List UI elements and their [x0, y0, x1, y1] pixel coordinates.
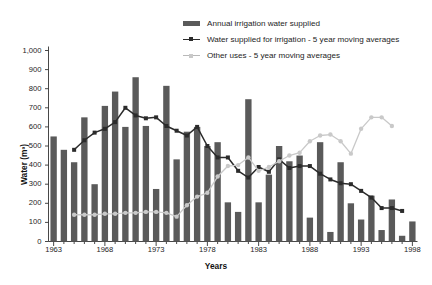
line-marker	[185, 134, 189, 138]
bar	[337, 162, 343, 241]
bar	[112, 92, 118, 242]
line-marker	[123, 211, 127, 215]
bar	[317, 142, 323, 241]
line-marker	[328, 132, 332, 136]
bar	[50, 136, 56, 241]
line-marker	[328, 177, 332, 181]
line-marker	[216, 155, 220, 159]
y-tick-label: 1,000	[12, 47, 42, 55]
line-marker	[113, 120, 117, 124]
bar-series	[50, 77, 415, 241]
line-marker	[72, 213, 76, 217]
line-marker	[236, 163, 240, 167]
line-marker	[133, 211, 137, 215]
line-path	[74, 117, 392, 216]
bar	[307, 218, 313, 242]
bar	[184, 132, 190, 242]
bar	[399, 236, 405, 242]
line-marker	[267, 170, 271, 174]
line-marker	[195, 125, 199, 129]
y-tick-label: 900	[12, 66, 42, 74]
y-tick-label: 0	[12, 238, 42, 246]
y-tick-label: 300	[12, 180, 42, 188]
line-marker	[103, 212, 107, 216]
line-marker	[82, 138, 86, 142]
bar	[122, 127, 128, 242]
line-marker	[390, 206, 394, 210]
line-series-irrigation-avg	[72, 106, 404, 213]
line-marker	[134, 113, 138, 117]
bar-swatch-icon	[183, 17, 200, 30]
line-marker	[297, 150, 301, 154]
chart-legend: Annual irrigation water supplied Water s…	[183, 17, 432, 65]
line-marker	[164, 124, 168, 128]
line-marker	[349, 151, 353, 155]
line-marker	[205, 191, 209, 195]
line-marker	[339, 181, 343, 185]
line-marker	[287, 166, 291, 170]
legend-label-bars: Annual irrigation water supplied	[207, 18, 320, 29]
y-tick-label: 100	[12, 218, 42, 226]
line-marker	[277, 159, 281, 163]
x-tick-label: 1988	[294, 246, 326, 254]
bar	[61, 150, 67, 242]
line-marker	[185, 203, 189, 207]
bar	[235, 212, 241, 242]
line-marker	[93, 131, 97, 135]
line-marker	[103, 127, 107, 131]
line-marker	[72, 148, 76, 152]
bar	[71, 162, 77, 241]
x-tick-label: 1968	[89, 246, 121, 254]
bar	[153, 189, 159, 242]
y-tick-label: 800	[12, 85, 42, 93]
bar	[348, 203, 354, 241]
line-marker	[226, 164, 230, 168]
line-marker	[174, 214, 178, 218]
line-marker	[246, 155, 250, 159]
line-marker	[246, 176, 250, 180]
line-marker	[318, 172, 322, 176]
line-marker	[144, 210, 148, 214]
line-marker	[318, 133, 322, 137]
line-marker	[195, 194, 199, 198]
line-marker	[308, 139, 312, 143]
y-tick-label: 600	[12, 123, 42, 131]
line-marker	[82, 213, 86, 217]
bar	[255, 202, 261, 241]
y-tick-label: 700	[12, 104, 42, 112]
bar	[173, 159, 179, 241]
grey-line-swatch-icon	[183, 49, 200, 62]
x-tick-label: 1983	[243, 246, 275, 254]
dark-line-swatch-icon	[183, 33, 200, 46]
chart-figure: Annual irrigation water supplied Water s…	[0, 0, 432, 285]
x-tick-label: 1963	[38, 246, 70, 254]
line-marker	[205, 144, 209, 148]
line-marker	[123, 106, 127, 110]
y-tick-label: 500	[12, 142, 42, 150]
line-marker	[369, 196, 373, 200]
legend-item-bars: Annual irrigation water supplied	[183, 17, 432, 30]
x-tick-label: 1973	[140, 246, 172, 254]
line-marker	[380, 206, 384, 210]
bar	[143, 126, 149, 242]
bar	[286, 161, 292, 241]
y-tick-label: 200	[12, 199, 42, 207]
legend-item-irrigation-avg: Water supplied for irrigation - 5 year m…	[183, 33, 432, 46]
y-tick-label: 400	[12, 161, 42, 169]
line-marker	[256, 169, 260, 173]
line-marker	[113, 212, 117, 216]
line-marker	[92, 213, 96, 217]
bar	[225, 202, 231, 241]
line-marker	[154, 210, 158, 214]
bar	[378, 230, 384, 241]
line-marker	[369, 115, 373, 119]
line-marker	[400, 209, 404, 213]
legend-label-irrigation-avg: Water supplied for irrigation - 5 year m…	[207, 34, 399, 45]
line-marker	[164, 211, 168, 215]
bar	[266, 175, 272, 242]
bar	[327, 232, 333, 242]
x-axis-label: Years	[0, 261, 432, 271]
bar	[81, 117, 87, 241]
bar	[409, 221, 415, 241]
bar	[389, 199, 395, 241]
